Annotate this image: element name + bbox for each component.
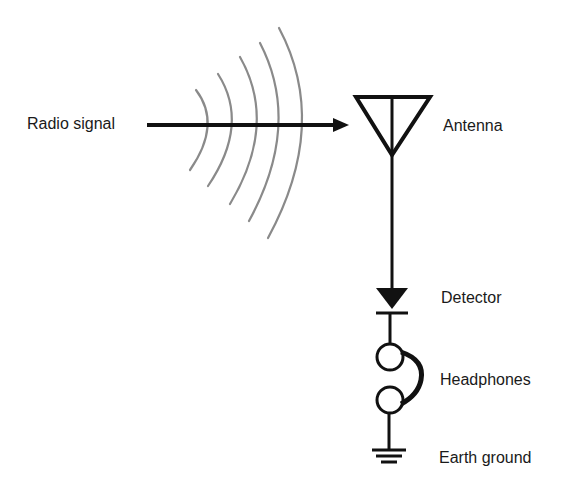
diagram-canvas: Radio signal Antenna Detector Headphones… (0, 0, 584, 491)
radio-signal-label: Radio signal (27, 116, 115, 132)
radio-waves-icon (190, 28, 302, 238)
detector-label: Detector (441, 290, 501, 306)
headphones-label: Headphones (440, 372, 531, 388)
diode-icon (376, 288, 408, 313)
headphones-icon (377, 344, 422, 413)
earth-ground-label: Earth ground (439, 450, 532, 466)
ground-icon (372, 450, 406, 462)
signal-arrow-icon (147, 118, 349, 132)
antenna-label: Antenna (443, 118, 503, 134)
schematic-drawing (0, 0, 584, 491)
antenna-icon (356, 97, 430, 155)
